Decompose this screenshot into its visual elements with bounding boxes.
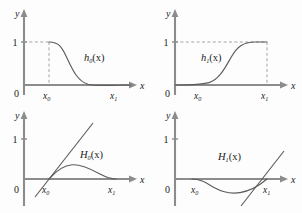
- hermite-basis-figure: y x 0 1 x0 x1 h0(x) y x 0 1 x0 x1 h1(x): [0, 0, 302, 213]
- y-tick-label-one: 1: [164, 134, 169, 145]
- x0-tick-label: x0: [190, 185, 199, 196]
- curve-h1: [175, 42, 267, 85]
- y-axis-label: y: [14, 8, 20, 19]
- function-label-h0: h0(x): [84, 52, 105, 64]
- function-label-H0: H0(x): [79, 149, 103, 161]
- x1-tick-label: x1: [107, 185, 115, 196]
- x0-tick-label: x0: [41, 185, 50, 196]
- x1-tick-label: x1: [109, 91, 117, 102]
- x1-tick-label: x1: [262, 185, 270, 196]
- x0-tick-label: x0: [42, 91, 51, 102]
- function-label-H1: H1(x): [217, 151, 241, 163]
- x-axis-label: x: [290, 174, 296, 185]
- x-axis-label: x: [139, 174, 145, 185]
- x0-tick-label: x0: [193, 91, 202, 102]
- y-axis-arrow-icon: [21, 9, 28, 17]
- x-axis-arrow-icon: [280, 82, 288, 89]
- panel-H1: y x 0 1 x0 x1 H1(x): [151, 107, 302, 213]
- panel-h0: y x 0 1 x0 x1 h0(x): [0, 0, 151, 106]
- x-axis-arrow-icon: [129, 176, 137, 183]
- y-axis-label: y: [14, 110, 20, 121]
- y-axis-arrow-icon: [172, 111, 179, 119]
- y-tick-label-one: 1: [13, 134, 18, 145]
- function-label-h1: h1(x): [201, 52, 222, 64]
- y-axis-label: y: [165, 8, 171, 19]
- origin-label: 0: [14, 88, 19, 99]
- x-axis-label: x: [139, 80, 145, 91]
- y-tick-label-one: 1: [13, 37, 18, 48]
- y-tick-label-one: 1: [164, 37, 169, 48]
- origin-label: 0: [14, 184, 19, 195]
- x1-tick-label: x1: [260, 91, 268, 102]
- curve-H1: [192, 179, 267, 193]
- y-axis-arrow-icon: [21, 111, 28, 119]
- panel-h1: y x 0 1 x0 x1 h1(x): [151, 0, 302, 106]
- x-axis-label: x: [290, 80, 296, 91]
- origin-label: 0: [165, 184, 170, 195]
- x-axis-arrow-icon: [280, 176, 288, 183]
- y-axis-label: y: [165, 110, 171, 121]
- origin-label: 0: [165, 88, 170, 99]
- panel-H0: y x 0 1 x0 x1 H0(x): [0, 107, 151, 213]
- y-axis-arrow-icon: [172, 9, 179, 17]
